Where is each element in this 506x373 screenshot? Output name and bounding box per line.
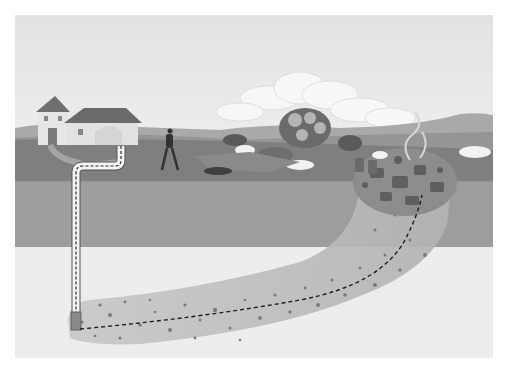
rock — [204, 167, 232, 175]
illustration-frame — [15, 15, 493, 358]
well-screen — [71, 312, 81, 330]
groundwater-contamination-illustration — [15, 15, 493, 358]
